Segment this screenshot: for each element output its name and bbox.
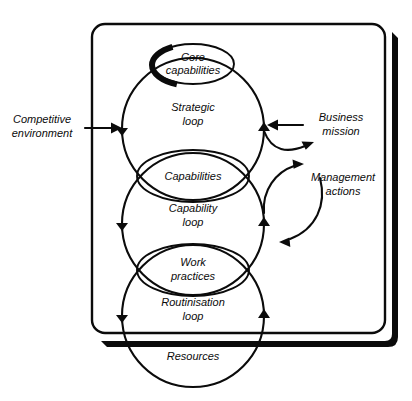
management-to-capability-path	[290, 178, 322, 239]
core-capabilities-label-line2: capabilities	[166, 64, 221, 76]
concept-diagram: Core capabilities Strategic loop Capabil…	[0, 0, 412, 401]
business-mission-arrow	[267, 120, 303, 131]
resources-label: Resources	[167, 350, 220, 362]
competitive-environment-label-line2: environment	[12, 127, 73, 139]
capability-to-management-head	[293, 159, 305, 168]
routinisation-loop-label-line1: Routinisation	[161, 296, 225, 308]
management-actions-label-line2: actions	[326, 185, 361, 197]
diagram-canvas: Core capabilities Strategic loop Capabil…	[0, 0, 412, 401]
flow-marker-routinisation-right	[258, 309, 270, 318]
work-practices-label-line1: Work	[180, 256, 206, 268]
capability-to-management-path	[264, 166, 294, 213]
capabilities-label: Capabilities	[165, 170, 222, 182]
capability-loop-label-line2: loop	[183, 216, 204, 228]
management-to-capability-head	[279, 237, 290, 247]
routinisation-loop-label-line2: loop	[183, 310, 204, 322]
management-to-capability-curve	[279, 178, 322, 247]
strategic-to-mission-path	[264, 131, 305, 150]
flow-marker-capability-right	[258, 217, 270, 226]
flow-marker-capability-left	[116, 223, 128, 231]
capability-loop-label-line1: Capability	[169, 202, 219, 214]
strategic-loop-label-line1: Strategic	[171, 101, 215, 113]
business-mission-label-line2: mission	[322, 125, 359, 137]
competitive-environment-label-line1: Competitive	[13, 113, 71, 125]
management-actions-label-line1: Management	[311, 171, 376, 183]
work-practices-label-line2: practices	[170, 270, 216, 282]
strategic-to-mission-curve	[264, 131, 314, 150]
business-mission-arrow-head	[267, 120, 278, 131]
core-capabilities-label-line1: Core	[181, 51, 205, 63]
strategic-loop-label-line2: loop	[183, 115, 204, 127]
flow-marker-strategic-right	[258, 122, 270, 131]
capability-to-management-curve	[264, 159, 304, 213]
flow-marker-routinisation-left	[116, 315, 128, 323]
competitive-environment-arrow	[85, 123, 122, 134]
business-mission-label-line1: Business	[319, 111, 364, 123]
